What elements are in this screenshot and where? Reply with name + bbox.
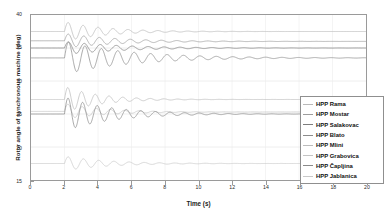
legend-item-label: HPP Čapljina <box>316 163 353 169</box>
legend-item-label: HPP Mostar <box>316 111 349 117</box>
x-tick-mark <box>199 181 200 185</box>
legend-item[interactable]: HPP Grabovica <box>301 150 383 160</box>
legend-color-swatch <box>303 104 313 105</box>
legend-item[interactable]: HPP Jablanica <box>301 171 383 181</box>
legend-item[interactable]: HPP Mostar <box>301 109 383 119</box>
legend-item-label: HPP Mlini <box>316 142 343 148</box>
x-tick-mark <box>30 181 31 185</box>
y-axis-label: Rotor angle of synchronous machine (deg) <box>11 14 25 181</box>
legend-item-label: HPP Blato <box>316 132 345 138</box>
y-tick-label: 35 <box>0 44 22 50</box>
y-tick-label: 20 <box>0 145 22 151</box>
legend-item-label: HPP Jablanica <box>316 173 357 179</box>
legend-color-swatch <box>303 176 313 177</box>
legend-color-swatch <box>303 124 313 125</box>
chart-legend[interactable]: HPP RamaHPP MostarHPP SalakovacHPP Blato… <box>300 96 384 184</box>
legend-color-swatch <box>303 135 313 136</box>
x-tick-mark <box>97 181 98 185</box>
x-tick-mark <box>266 181 267 185</box>
legend-color-swatch <box>303 165 313 166</box>
legend-color-swatch <box>303 155 313 156</box>
x-tick-mark <box>64 181 65 185</box>
legend-color-swatch <box>303 145 313 146</box>
legend-item[interactable]: HPP Rama <box>301 99 383 109</box>
legend-item-label: HPP Grabovica <box>316 153 359 159</box>
x-tick-mark <box>232 181 233 185</box>
legend-item[interactable]: HPP Mlini <box>301 140 383 150</box>
legend-item-label: HPP Rama <box>316 101 346 107</box>
legend-item[interactable]: HPP Čapljina <box>301 161 383 171</box>
x-axis-label: Time (s) <box>30 200 367 207</box>
series-line <box>31 22 366 39</box>
series-line <box>31 42 366 53</box>
x-tick-mark <box>131 181 132 185</box>
legend-item[interactable]: HPP Blato <box>301 130 383 140</box>
y-tick-label: 25 <box>0 111 22 117</box>
series-line <box>31 34 366 47</box>
y-tick-label: 30 <box>0 78 22 84</box>
legend-item-label: HPP Salakovac <box>316 122 359 128</box>
chart-figure: Rotor angle of synchronous machine (deg)… <box>0 0 391 224</box>
x-tick-mark <box>165 181 166 185</box>
legend-item[interactable]: HPP Salakovac <box>301 120 383 130</box>
y-tick-label: 40 <box>0 11 22 17</box>
legend-color-swatch <box>303 114 313 115</box>
